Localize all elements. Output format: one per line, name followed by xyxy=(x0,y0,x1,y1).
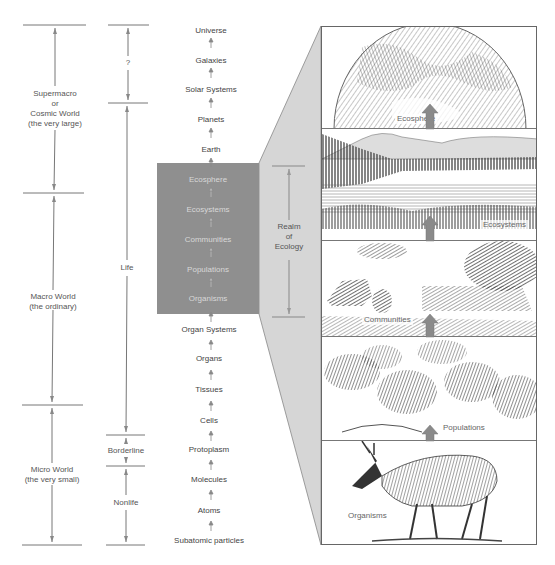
life-label-life: Life xyxy=(112,263,142,273)
level-atoms: Atoms xyxy=(149,506,269,516)
level-molecules: Molecules xyxy=(149,475,269,485)
label-line: Ecology xyxy=(272,242,306,252)
level-protoplasm: Protoplasm xyxy=(149,445,269,455)
world-label-micro: Micro World (the very small) xyxy=(16,465,88,485)
illustration-panel: Ecosphere Ecosystems xyxy=(321,26,537,545)
world-label-supermacro: Supermacro or Cosmic World (the very lar… xyxy=(20,89,90,129)
label-line: Macro World xyxy=(18,292,88,302)
realm-of-ecology-label: Realm of Ecology xyxy=(272,222,306,252)
label-line: Realm xyxy=(272,222,306,232)
level-ecosystems: Ecosystems xyxy=(148,205,268,215)
label-line: Supermacro xyxy=(20,89,90,99)
label-line: Micro World xyxy=(16,465,88,475)
up-arrow-icon xyxy=(422,104,438,129)
level-organs: Organs xyxy=(149,354,269,364)
level-galaxies: Galaxies xyxy=(151,56,271,66)
level-cells: Cells xyxy=(149,416,269,426)
level-tissues: Tissues xyxy=(149,385,269,395)
level-solar-systems: Solar Systems xyxy=(151,85,271,95)
zoom-wedge xyxy=(259,26,321,545)
level-universe: Universe xyxy=(151,26,271,36)
label-line: (the very large) xyxy=(20,119,90,129)
up-arrow-icon xyxy=(422,314,438,337)
level-earth: Earth xyxy=(151,145,271,155)
life-label-borderline: Borderline xyxy=(101,446,151,456)
label-line: (the ordinary) xyxy=(18,302,88,312)
level-populations: Populations xyxy=(148,265,268,275)
level-organ-systems: Organ Systems xyxy=(149,325,269,335)
up-arrow-icon xyxy=(422,216,438,241)
label-line: Cosmic World xyxy=(20,109,90,119)
label-line: (the very small) xyxy=(16,475,88,485)
band-arrows xyxy=(322,27,537,545)
label-line: of xyxy=(272,232,306,242)
life-scale xyxy=(106,25,149,545)
level-communities: Communities xyxy=(148,235,268,245)
up-arrow-icon xyxy=(422,425,438,441)
world-label-macro: Macro World (the ordinary) xyxy=(18,292,88,312)
life-label-nonlife: Nonlife xyxy=(106,498,146,508)
label-line: or xyxy=(20,99,90,109)
level-ecosphere: Ecosphere xyxy=(148,175,268,185)
level-subatomic-particles: Subatomic particles xyxy=(149,536,269,546)
level-organisms: Organisms xyxy=(148,294,268,304)
life-label-unknown: ? xyxy=(118,58,138,68)
level-planets: Planets xyxy=(151,115,271,125)
